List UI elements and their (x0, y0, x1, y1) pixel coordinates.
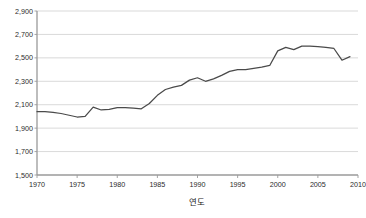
y-axis-tick-label: 1,500 (15, 171, 33, 180)
y-axis-tick-label: 1,900 (15, 124, 33, 133)
x-axis-tick-label: 1995 (230, 180, 246, 189)
y-axis-tick-label: 2,900 (15, 7, 33, 16)
x-axis-tick-labels: 197019751980198519901995200020052010 (29, 180, 366, 189)
x-axis-tick-label: 1970 (29, 180, 45, 189)
y-axis-tick-label: 2,100 (15, 100, 33, 109)
line-chart: 1,5001,7001,9002,1002,3002,5002,7002,900… (0, 0, 366, 218)
x-axis-tick-label: 1975 (69, 180, 85, 189)
gridlines-group (37, 11, 358, 152)
y-axis-tick-label: 2,700 (15, 30, 33, 39)
x-axis-title: 연도 (189, 197, 205, 207)
x-axis-tick-label: 1990 (190, 180, 206, 189)
y-axis-tick-label: 2,500 (15, 53, 33, 62)
y-axis-tick-label: 2,300 (15, 77, 33, 86)
x-axis-tick-label: 2010 (350, 180, 366, 189)
y-axis-tick-labels: 1,5001,7001,9002,1002,3002,5002,7002,900 (15, 7, 37, 180)
y-axis-tick-label: 1,700 (15, 147, 33, 156)
x-axis-tick-label: 1985 (149, 180, 165, 189)
x-axis-tick-label: 1980 (109, 180, 125, 189)
x-axis-tick-label: 2000 (270, 180, 286, 189)
chart-canvas: 1,5001,7001,9002,1002,3002,5002,7002,900… (0, 0, 366, 218)
x-axis-tick-label: 2005 (310, 180, 326, 189)
